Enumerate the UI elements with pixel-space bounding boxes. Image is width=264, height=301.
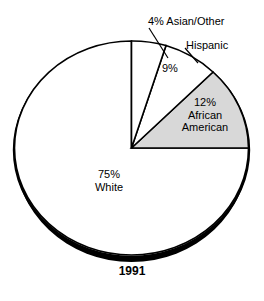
slice-label-african-american-percent: 12% xyxy=(170,96,240,109)
slice-label-white: 75% White xyxy=(84,168,134,193)
chart-caption-year: 1991 xyxy=(0,264,264,278)
slice-label-white-percent: 75% xyxy=(84,168,134,181)
slice-label-asian-other: 4% Asian/Other xyxy=(148,15,224,28)
pie-slices xyxy=(15,41,249,255)
slice-label-african-american: 12% African American xyxy=(170,96,240,134)
slice-label-hispanic-percent: 9% xyxy=(162,62,178,75)
slice-label-hispanic: Hispanic xyxy=(186,39,228,52)
slice-label-african-american-line2: American xyxy=(170,121,240,134)
slice-label-white-name: White xyxy=(84,181,134,194)
slice-label-african-american-line1: African xyxy=(170,109,240,122)
pie-chart: 4% Asian/Other Hispanic 9% 12% African A… xyxy=(0,0,264,301)
